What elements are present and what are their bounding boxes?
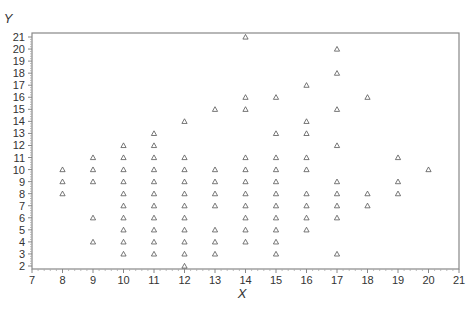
- y-tick-label: 18: [13, 67, 25, 79]
- data-point-triangle: [304, 131, 309, 136]
- data-point-triangle: [60, 167, 65, 172]
- data-point-triangle: [334, 251, 339, 256]
- data-point-triangle: [243, 203, 248, 208]
- data-point-triangle: [121, 143, 126, 148]
- data-point-triangle: [121, 179, 126, 184]
- data-point-triangle: [304, 191, 309, 196]
- data-point-triangle: [151, 155, 156, 160]
- scatter-chart: 23456789101112131415161718192021 7891011…: [0, 0, 476, 309]
- data-point-triangle: [90, 167, 95, 172]
- y-axis: 23456789101112131415161718192021: [13, 31, 32, 272]
- data-point-triangle: [60, 191, 65, 196]
- x-axis-title: X: [237, 286, 248, 301]
- y-tick-label: 2: [19, 260, 25, 272]
- data-point-triangle: [182, 179, 187, 184]
- y-tick-label: 7: [19, 200, 25, 212]
- data-point-triangle: [212, 167, 217, 172]
- data-point-triangle: [243, 239, 248, 244]
- y-tick-label: 10: [13, 164, 25, 176]
- data-point-triangle: [365, 203, 370, 208]
- data-point-triangle: [182, 251, 187, 256]
- data-point-triangle: [90, 179, 95, 184]
- data-point-triangle: [212, 251, 217, 256]
- data-point-triangle: [121, 251, 126, 256]
- data-point-triangle: [304, 215, 309, 220]
- data-point-triangle: [212, 107, 217, 112]
- data-point-triangle: [395, 191, 400, 196]
- data-point-triangle: [90, 215, 95, 220]
- data-point-triangle: [182, 203, 187, 208]
- x-tick-label: 18: [361, 274, 373, 286]
- data-point-triangle: [151, 239, 156, 244]
- data-point-triangle: [60, 179, 65, 184]
- data-point-triangle: [151, 203, 156, 208]
- data-point-triangle: [334, 179, 339, 184]
- x-tick-label: 17: [331, 274, 343, 286]
- data-point-triangle: [334, 71, 339, 76]
- x-tick-label: 19: [392, 274, 404, 286]
- y-tick-label: 9: [19, 176, 25, 188]
- data-point-triangle: [121, 215, 126, 220]
- x-tick-label: 13: [209, 274, 221, 286]
- data-point-triangle: [182, 239, 187, 244]
- data-point-triangle: [90, 155, 95, 160]
- data-point-triangle: [243, 155, 248, 160]
- data-point-triangle: [273, 203, 278, 208]
- data-point-triangle: [304, 155, 309, 160]
- data-point-triangle: [182, 155, 187, 160]
- x-tick-label: 9: [90, 274, 96, 286]
- x-tick-label: 20: [422, 274, 434, 286]
- y-tick-label: 3: [19, 248, 25, 260]
- data-point-triangle: [304, 83, 309, 88]
- plot-frame: [32, 33, 459, 269]
- data-point-triangle: [273, 167, 278, 172]
- data-point-triangle: [121, 155, 126, 160]
- y-tick-label: 16: [13, 91, 25, 103]
- x-tick-label: 21: [453, 274, 465, 286]
- data-point-triangle: [212, 239, 217, 244]
- x-tick-label: 7: [29, 274, 35, 286]
- x-tick-label: 12: [178, 274, 190, 286]
- data-point-triangle: [273, 131, 278, 136]
- y-tick-label: 8: [19, 188, 25, 200]
- data-point-triangle: [273, 95, 278, 100]
- data-point-triangle: [273, 251, 278, 256]
- data-point-triangle: [212, 203, 217, 208]
- data-point-triangle: [151, 179, 156, 184]
- y-tick-label: 19: [13, 55, 25, 67]
- y-tick-label: 17: [13, 79, 25, 91]
- y-tick-label: 5: [19, 224, 25, 236]
- data-point-triangle: [365, 95, 370, 100]
- y-tick-label: 4: [19, 236, 25, 248]
- data-point-triangle: [182, 119, 187, 124]
- data-point-triangle: [151, 143, 156, 148]
- data-point-triangle: [334, 191, 339, 196]
- x-tick-label: 10: [117, 274, 129, 286]
- data-point-triangle: [151, 227, 156, 232]
- y-tick-label: 13: [13, 127, 25, 139]
- data-point-triangle: [273, 155, 278, 160]
- y-tick-label: 6: [19, 212, 25, 224]
- data-point-triangle: [304, 167, 309, 172]
- data-point-triangle: [212, 191, 217, 196]
- data-point-triangle: [90, 239, 95, 244]
- data-point-triangle: [121, 239, 126, 244]
- data-point-triangle: [334, 46, 339, 51]
- data-point-triangle: [273, 215, 278, 220]
- data-point-triangle: [395, 179, 400, 184]
- data-point-triangle: [334, 143, 339, 148]
- data-point-triangle: [121, 167, 126, 172]
- x-axis: 789101112131415161718192021: [29, 269, 465, 286]
- y-axis-title: Y: [4, 11, 14, 26]
- data-point-triangle: [182, 215, 187, 220]
- y-tick-label: 14: [13, 115, 25, 127]
- data-point-triangle: [395, 155, 400, 160]
- x-tick-label: 16: [300, 274, 312, 286]
- data-point-triangle: [151, 191, 156, 196]
- data-point-triangle: [182, 191, 187, 196]
- data-point-triangle: [121, 191, 126, 196]
- data-point-triangle: [304, 203, 309, 208]
- data-point-triangle: [212, 227, 217, 232]
- x-tick-label: 14: [239, 274, 251, 286]
- data-point-triangle: [182, 167, 187, 172]
